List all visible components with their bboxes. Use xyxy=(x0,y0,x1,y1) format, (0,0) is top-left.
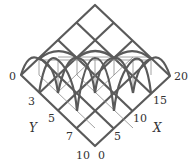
x-tick-20: 20 xyxy=(174,70,188,83)
y-tick-0: 0 xyxy=(9,70,16,83)
y-tick-7: 7 xyxy=(66,130,73,143)
x-tick-5: 5 xyxy=(114,130,121,143)
y-axis-title: Y xyxy=(29,121,38,135)
surface-plot: 0 3 5 7 10 Y 0 5 10 15 20 X xyxy=(0,0,194,164)
y-tick-3: 3 xyxy=(28,95,35,108)
x-axis-title: X xyxy=(152,121,162,135)
y-tick-10: 10 xyxy=(76,149,90,162)
x-tick-15: 15 xyxy=(153,94,167,107)
x-tick-0: 0 xyxy=(98,149,105,162)
y-tick-5: 5 xyxy=(48,112,55,125)
x-axis-labels: 0 5 10 15 20 X xyxy=(98,70,188,162)
x-tick-10: 10 xyxy=(133,112,147,125)
